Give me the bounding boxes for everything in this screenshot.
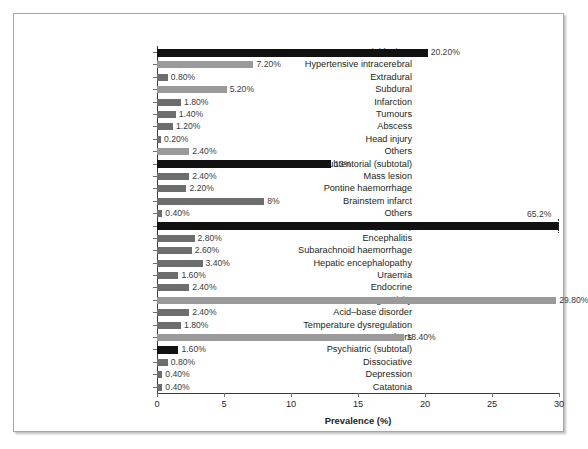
bar-value-label: 2.20% <box>189 182 213 195</box>
bar-value-label: 7.20% <box>256 58 280 71</box>
bar <box>157 136 161 143</box>
bar-row: Others0.40% <box>157 207 559 220</box>
bar <box>157 160 331 168</box>
bar-value-label: 0.40% <box>165 381 189 394</box>
bar-value-label: 2.80% <box>198 232 222 245</box>
bar-value-label: 1.80% <box>184 319 208 332</box>
bar-row: Subarachnoid haemorrhage2.60% <box>157 244 559 257</box>
x-axis-tick-label: 25 <box>487 398 497 410</box>
bar-row: Dissociative0.80% <box>157 356 559 369</box>
bar <box>157 185 186 192</box>
bar-row: Tumours1.40% <box>157 108 559 121</box>
bar-row: Drug toxicity29.80% <box>157 294 559 307</box>
bar <box>157 148 189 155</box>
bar-row: Uraemia1.60% <box>157 269 559 282</box>
bar <box>157 247 192 254</box>
bar-value-label: 0.40% <box>165 368 189 381</box>
bar-value-label: 3.40% <box>206 257 230 270</box>
x-axis-tick-label: 20 <box>420 398 430 410</box>
x-axis-tick <box>492 393 493 397</box>
x-axis-tick <box>224 393 225 397</box>
bar-row: Supratentorial lesions20.20% <box>157 46 559 59</box>
x-axis-title: Prevalence (%) <box>157 415 559 426</box>
bar-value-label: 2.40% <box>192 281 216 294</box>
bar-value-label: 1.40% <box>179 108 203 121</box>
bar <box>157 334 404 341</box>
bar-row: Temperature dysregulation1.80% <box>157 319 559 332</box>
figure-frame: Supratentorial lesions20.20%Hypertensive… <box>13 13 564 432</box>
bar <box>157 235 195 242</box>
bar <box>157 198 264 205</box>
bar-value-label: 0.80% <box>171 71 195 84</box>
bar-row: Infarction1.80% <box>157 96 559 109</box>
bar-row: Metabolic (subtotal)65.2% <box>157 220 559 233</box>
x-axis-tick <box>559 393 560 397</box>
bar-row: Others18.40% <box>157 331 559 344</box>
bar-row: Endocrine2.40% <box>157 281 559 294</box>
bar-value-label: 0.40% <box>165 207 189 220</box>
bar <box>157 309 189 316</box>
bar-value-label: 2.60% <box>195 244 219 257</box>
bar-value-label: 0.20% <box>164 133 188 146</box>
bar <box>157 359 168 366</box>
bar-row: Encephalitis2.80% <box>157 232 559 245</box>
bar-row: Hypertensive intracerebral7.20% <box>157 58 559 71</box>
bar-value-label: 29.80% <box>559 294 588 307</box>
bar <box>157 61 253 68</box>
bar-value-label: 1.60% <box>181 343 205 356</box>
bar-value-label: 8% <box>267 195 279 208</box>
x-axis-tick-label: 5 <box>221 398 226 410</box>
bar-value-label: 13% <box>334 158 351 171</box>
bar <box>157 111 176 118</box>
bar-row: Psychiatric (subtotal)1.60% <box>157 343 559 356</box>
bar-row: Acid–base disorder2.40% <box>157 306 559 319</box>
bar-value-label: 2.40% <box>192 306 216 319</box>
bar-row: Hepatic encephalopathy3.40% <box>157 257 559 270</box>
bar-row: Subtentorial (subtotal)13% <box>157 158 559 171</box>
bar-value-label: 0.80% <box>171 356 195 369</box>
bar-row: Brainstem infarct8% <box>157 195 559 208</box>
bar-value-label: 20.20% <box>431 46 460 59</box>
x-axis-tick-label: 0 <box>154 398 159 410</box>
bar <box>157 49 428 57</box>
x-axis-tick-label: 30 <box>554 398 564 410</box>
bar <box>157 173 189 180</box>
bar <box>157 371 162 378</box>
bar-row: Mass lesion2.40% <box>157 170 559 183</box>
bar-value-label: 1.60% <box>181 269 205 282</box>
bar-row: Extradural0.80% <box>157 71 559 84</box>
bar-row: Abscess1.20% <box>157 120 559 133</box>
bar <box>157 99 181 106</box>
bar <box>157 346 178 354</box>
bar-value-label: 65.2% <box>527 208 551 221</box>
bar <box>157 322 181 329</box>
x-axis-tick <box>157 393 158 397</box>
bar <box>157 297 556 304</box>
bar-row: Subdural5.20% <box>157 83 559 96</box>
x-axis-tick-label: 10 <box>286 398 296 410</box>
bar <box>157 284 189 291</box>
bar-row: Depression0.40% <box>157 368 559 381</box>
x-axis-tick <box>425 393 426 397</box>
bar-value-label: 1.80% <box>184 96 208 109</box>
bar <box>157 74 168 81</box>
x-axis-tick <box>358 393 359 397</box>
bar <box>157 272 178 279</box>
x-axis-tick-label: 15 <box>353 398 363 410</box>
bar-value-label: 2.40% <box>192 145 216 158</box>
bar-row: Pontine haemorrhage2.20% <box>157 182 559 195</box>
bar <box>157 384 162 391</box>
bar <box>157 260 203 267</box>
axis-break-marker <box>558 219 559 233</box>
bar <box>157 86 227 93</box>
bar-value-label: 5.20% <box>230 83 254 96</box>
bar-value-label: 2.40% <box>192 170 216 183</box>
bar-row: Others2.40% <box>157 145 559 158</box>
bar-value-label: 1.20% <box>176 120 200 133</box>
bar <box>157 210 162 217</box>
bar-row: Catatonia0.40% <box>157 381 559 394</box>
plot-area: Supratentorial lesions20.20%Hypertensive… <box>157 46 559 393</box>
bar <box>157 123 173 130</box>
bar-value-label: 18.40% <box>407 331 436 344</box>
